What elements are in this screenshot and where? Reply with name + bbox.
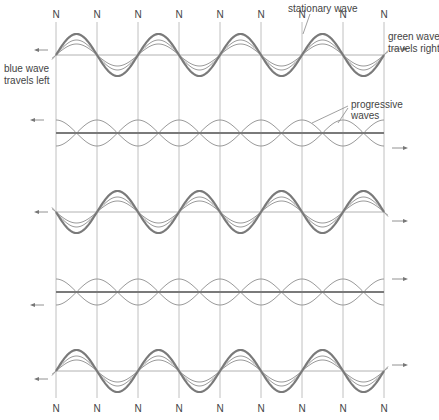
wave-row-3 xyxy=(34,191,408,233)
node-label: N xyxy=(380,9,387,20)
right-arrow-icon xyxy=(403,219,408,223)
node-label: N xyxy=(175,403,182,414)
left-arrow-icon xyxy=(34,48,39,52)
right-arrow-icon xyxy=(403,146,408,150)
left-arrow-icon xyxy=(30,118,35,122)
right-arrow-icon xyxy=(403,277,408,281)
node-label: N xyxy=(257,9,264,20)
wave-rows xyxy=(30,34,408,392)
blue-wave-label-line2: travels left xyxy=(4,75,50,86)
wave-row-5 xyxy=(34,350,408,392)
node-label: N xyxy=(93,403,100,414)
green-wave-label-line2: travels right xyxy=(388,43,439,54)
green-wave-label-line1: green wave xyxy=(388,31,439,42)
node-labels-bottom: NNNNNNNNN xyxy=(52,403,387,414)
node-label: N xyxy=(216,9,223,20)
node-label: N xyxy=(298,403,305,414)
progressive-waves-label-line2: waves xyxy=(350,110,379,121)
left-arrow-icon xyxy=(34,377,39,381)
stationary-wave-label: stationary wave xyxy=(288,3,358,14)
node-label: N xyxy=(339,403,346,414)
stationary-wave-diagram: NNNNNNNNN NNNNNNNNN stationary wave gree… xyxy=(0,0,439,420)
blue-wave-label-line1: blue wave xyxy=(4,63,49,74)
node-label: N xyxy=(52,403,59,414)
right-arrow-icon xyxy=(403,363,408,367)
node-label: N xyxy=(380,403,387,414)
node-label: N xyxy=(216,403,223,414)
node-label: N xyxy=(134,403,141,414)
wave-row-2 xyxy=(30,118,408,150)
left-arrow-icon xyxy=(30,303,35,307)
node-label: N xyxy=(175,9,182,20)
left-arrow-icon xyxy=(34,210,39,214)
node-label: N xyxy=(134,9,141,20)
node-label: N xyxy=(257,403,264,414)
node-label: N xyxy=(52,9,59,20)
wave-row-4 xyxy=(30,277,408,307)
node-label: N xyxy=(93,9,100,20)
progressive-waves-label-line1: progressive xyxy=(351,99,403,110)
wave-row-1 xyxy=(34,34,408,76)
